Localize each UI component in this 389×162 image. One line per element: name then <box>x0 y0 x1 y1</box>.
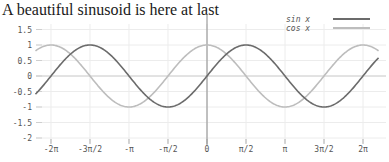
legend: sin xcos x <box>286 15 370 33</box>
x-tick-label: -π <box>124 145 134 154</box>
y-tick-label: -1.5 <box>13 119 32 128</box>
x-tick-label: 2π <box>358 145 368 154</box>
y-axis-ticks: 1.510.50-0.5-1-1.5-2 <box>13 26 42 144</box>
y-tick-label: -0.5 <box>13 88 32 97</box>
y-tick-label: -1 <box>22 103 32 112</box>
x-tick-label: π <box>283 145 288 154</box>
x-tick-label: 0 <box>205 145 210 154</box>
x-axis-ticks: -2π-3π/2-π-π/20π/2π3π/22π <box>44 139 368 154</box>
sinusoid-chart: 1.510.50-0.5-1-1.5-2 -2π-3π/2-π-π/20π/2π… <box>0 0 389 162</box>
x-tick-label: π/2 <box>239 145 254 154</box>
legend-label-cos: cos x <box>286 24 310 33</box>
y-tick-label: -2 <box>22 134 32 143</box>
x-tick-label: -π/2 <box>158 145 177 154</box>
x-tick-label: -2π <box>44 145 59 154</box>
legend-label-sin: sin x <box>286 15 310 24</box>
grid-lines <box>36 24 386 143</box>
x-tick-label: 3π/2 <box>314 145 333 154</box>
y-tick-label: 1 <box>27 41 32 50</box>
y-tick-label: 0 <box>27 72 32 81</box>
x-tick-label: -3π/2 <box>78 145 102 154</box>
y-tick-label: 0.5 <box>18 57 33 66</box>
y-tick-label: 1.5 <box>18 26 33 35</box>
